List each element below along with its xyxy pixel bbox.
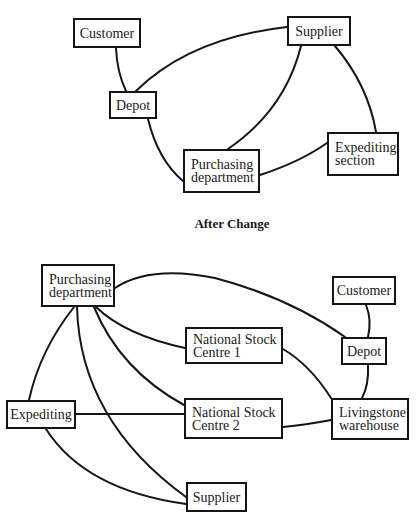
node-purchasing-department: Purchasing department <box>183 149 260 193</box>
node-customer: Customer <box>332 276 396 305</box>
edge-expediting-to-supplier <box>46 429 186 504</box>
after-change-caption: After Change <box>182 216 282 232</box>
node-expediting: Expediting <box>6 400 76 429</box>
edge-purchasing-department-to-expediting <box>29 307 74 400</box>
node-supplier: Supplier <box>287 16 351 46</box>
edge-supplier-to-expediting-section <box>335 46 376 132</box>
diagram-canvas <box>0 0 420 524</box>
edge-depot-to-purchasing-department <box>148 119 183 181</box>
edge-customer-to-depot <box>116 48 126 91</box>
node-national-stock-centre-2: National Stock Centre 2 <box>184 398 283 439</box>
edge-national-stock-centre-2-to-livingstone-warehouse <box>283 420 331 427</box>
edge-supplier-to-purchasing-department <box>228 46 301 149</box>
node-expediting-section: Expediting section <box>327 132 399 176</box>
edge-purchasing-department-to-national-stock-centre-2 <box>94 307 184 405</box>
edge-expediting-section-to-purchasing-department <box>260 143 327 175</box>
edge-national-stock-centre-1-to-livingstone-warehouse <box>283 349 331 398</box>
after-change-edges <box>29 273 370 504</box>
node-purchasing-department: Purchasing department <box>41 264 115 307</box>
node-national-stock-centre-1: National Stock Centre 1 <box>185 327 283 364</box>
edge-purchasing-department-to-national-stock-centre-1 <box>96 307 185 348</box>
edge-depot-to-supplier <box>136 27 287 91</box>
edge-depot-to-livingstone-warehouse <box>362 365 368 398</box>
edge-customer-to-depot <box>366 305 370 337</box>
edge-purchasing-department-to-supplier <box>77 307 186 497</box>
node-supplier: Supplier <box>186 482 247 512</box>
node-depot: Depot <box>341 337 387 365</box>
node-livingstone-warehouse: Livingstone warehouse <box>331 398 409 440</box>
node-depot: Depot <box>109 91 157 119</box>
node-customer: Customer <box>73 18 141 48</box>
